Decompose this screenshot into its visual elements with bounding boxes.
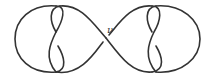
right-lobe-top bbox=[109, 6, 152, 35]
crossing-label: ν bbox=[107, 24, 113, 35]
right-twist bbox=[148, 6, 160, 72]
right-lobe-bottom bbox=[106, 38, 152, 72]
knot-diagram: ν bbox=[0, 0, 211, 79]
left-lobe-top bbox=[60, 6, 106, 38]
right-outer-loop bbox=[156, 6, 200, 72]
